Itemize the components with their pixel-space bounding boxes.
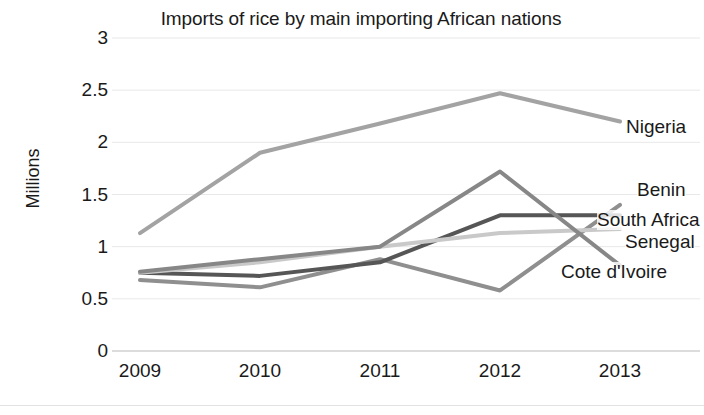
x-tick-label: 2009 bbox=[119, 360, 161, 382]
x-tick-label: 2013 bbox=[599, 360, 641, 382]
bottom-divider bbox=[0, 405, 704, 406]
chart-container: Imports of rice by main importing Africa… bbox=[0, 0, 704, 415]
plot-area bbox=[0, 0, 704, 415]
x-tick-label: 2012 bbox=[479, 360, 521, 382]
x-tick-label: 2010 bbox=[239, 360, 281, 382]
series-label-nigeria: Nigeria bbox=[626, 117, 686, 137]
series-line bbox=[140, 93, 620, 233]
series-label-benin: Benin bbox=[637, 180, 686, 200]
x-tick-label: 2011 bbox=[360, 360, 401, 382]
series-label-cote-d-ivoire: Cote d'Ivoire bbox=[561, 262, 667, 282]
series-label-south-africa: South Africa bbox=[597, 210, 699, 230]
series-label-senegal: Senegal bbox=[625, 232, 695, 252]
